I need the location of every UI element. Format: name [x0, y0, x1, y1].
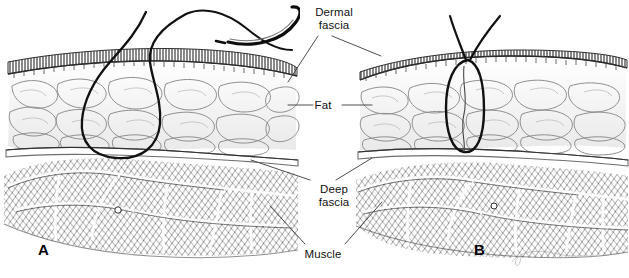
panel-label-b: B: [474, 241, 485, 258]
figure-canvas: Dermal fascia Fat Deep fascia Muscle A B: [0, 0, 629, 278]
label-deep-fascia-line1: Deep: [303, 183, 365, 196]
label-deep-fascia: Deep fascia: [303, 183, 365, 208]
curved-needle: [216, 7, 300, 44]
label-dermal-fascia: Dermal fascia: [303, 6, 365, 31]
illustration-artwork: [0, 0, 629, 278]
label-muscle: Muscle: [300, 248, 346, 261]
label-dermal-fascia-line1: Dermal: [303, 6, 365, 19]
panel-a-artwork: [4, 7, 300, 258]
label-deep-fascia-line2: fascia: [303, 196, 365, 209]
panel-label-a: A: [38, 241, 49, 258]
leader-dermal-fascia-a: [288, 36, 318, 82]
leader-dermal-fascia-b: [332, 36, 381, 56]
panel-b-artwork: [356, 16, 628, 266]
label-fat: Fat: [312, 99, 334, 112]
label-dermal-fascia-line2: fascia: [303, 19, 365, 32]
